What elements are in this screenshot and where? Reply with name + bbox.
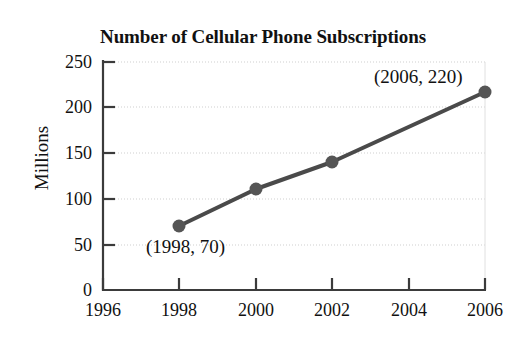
data-point <box>250 183 263 196</box>
chart-figure: Number of Cellular Phone Subscriptions M… <box>0 0 526 348</box>
x-tick-marks <box>103 278 485 290</box>
data-markers <box>173 86 492 233</box>
y-tick-label-150: 150 <box>40 143 92 164</box>
x-tick-label-2004: 2004 <box>374 300 444 321</box>
data-point <box>326 156 339 169</box>
data-point <box>173 220 186 233</box>
y-tick-label-50: 50 <box>40 235 92 256</box>
y-tick-label-100: 100 <box>40 189 92 210</box>
gridlines <box>103 62 485 245</box>
x-tick-label-2000: 2000 <box>221 300 291 321</box>
y-tick-label-250: 250 <box>40 52 92 73</box>
data-point <box>479 86 492 99</box>
x-tick-label-1996: 1996 <box>68 300 138 321</box>
annotation-1998-70: (1998, 70) <box>146 236 225 258</box>
y-tick-label-200: 200 <box>40 97 92 118</box>
y-tick-label-0: 0 <box>40 280 92 301</box>
y-tick-marks <box>103 62 115 245</box>
x-tick-label-2006: 2006 <box>450 300 520 321</box>
annotation-2006-220: (2006, 220) <box>374 66 463 88</box>
x-tick-label-1998: 1998 <box>144 300 214 321</box>
x-tick-label-2002: 2002 <box>297 300 367 321</box>
